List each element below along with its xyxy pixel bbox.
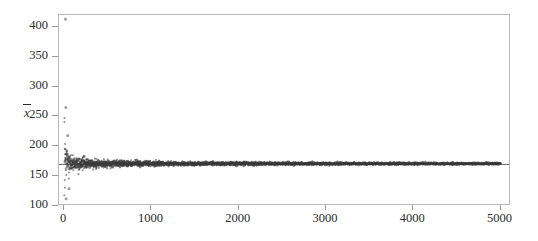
x-axis-tick: [150, 205, 151, 210]
y-axis-tick-label: 350: [8, 49, 48, 62]
x-axis-tick: [412, 205, 413, 210]
plot-area: [58, 14, 510, 205]
x-axis-tick: [63, 205, 64, 210]
x-axis-tick: [238, 205, 239, 210]
scatter-points-layer: [59, 15, 509, 204]
scatter-canvas: [59, 15, 510, 205]
y-axis-tick-label: 100: [8, 198, 48, 211]
y-axis-tick-label: 300: [8, 79, 48, 92]
y-axis-tick-label: 150: [8, 168, 48, 181]
y-axis-tick-label: 250: [8, 108, 48, 121]
x-axis-tick-label: 1000: [120, 212, 180, 225]
x-axis-tick: [500, 205, 501, 210]
x-axis-tick: [325, 205, 326, 210]
y-axis-tick-label: 200: [8, 138, 48, 151]
x-axis-tick-label: 5000: [470, 212, 530, 225]
x-axis-tick-label: 3000: [295, 212, 355, 225]
x-axis-tick-label: 2000: [208, 212, 268, 225]
chart-figure: x 100150200250300350400 0100020003000400…: [0, 0, 538, 241]
x-axis-tick-label: 0: [33, 212, 93, 225]
y-axis-tick: [52, 205, 58, 206]
x-axis-tick-label: 4000: [382, 212, 442, 225]
y-axis-tick-label: 400: [8, 19, 48, 32]
